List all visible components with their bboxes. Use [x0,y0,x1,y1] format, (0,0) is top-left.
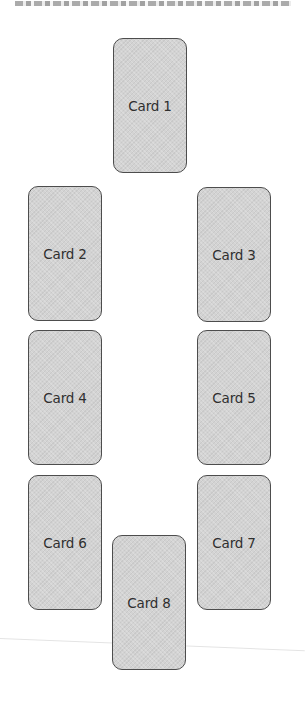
card-label: Card 5 [212,390,255,406]
card-label: Card 2 [43,246,86,262]
card-1: Card 1 [113,38,187,173]
card-6: Card 6 [28,475,102,610]
clipped-heading-glyph-remnants [15,1,291,6]
clipped-heading-text [15,0,291,6]
card-label: Card 3 [212,247,255,263]
card-3: Card 3 [197,187,271,322]
card-label: Card 8 [127,595,170,611]
card-5: Card 5 [197,330,271,465]
card-label: Card 1 [128,98,171,114]
card-label: Card 7 [212,535,255,551]
card-2: Card 2 [28,186,102,321]
card-label: Card 4 [43,390,86,406]
card-8: Card 8 [112,535,186,670]
card-7: Card 7 [197,475,271,610]
card-4: Card 4 [28,330,102,465]
card-label: Card 6 [43,535,86,551]
